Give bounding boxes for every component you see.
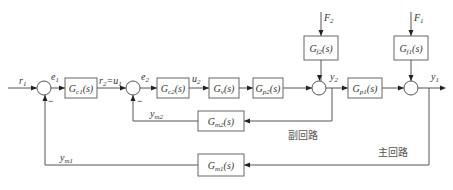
outer-feedback-line-left: [45, 95, 198, 165]
label-y2: y2: [329, 71, 338, 84]
arrow-into-gf2: [319, 30, 324, 36]
summing-junction-1: [37, 81, 51, 95]
label-inner-loop: 副回路: [288, 129, 318, 141]
summing-junction-3: [312, 81, 326, 95]
arrow-into-sum3: [306, 86, 312, 91]
label-e1: e1: [51, 71, 59, 84]
label-ym1: ym1: [59, 152, 73, 165]
arrow-into-gm2: [244, 119, 250, 124]
arrow-ym1-into-sum1: [43, 95, 48, 101]
arrow-into-gc2: [151, 86, 157, 91]
cascade-control-diagram: r1 e1 r2=u1 e2 u2 y2 y1 ym2 ym1 F2 F1 − …: [0, 0, 453, 190]
arrow-into-gc1: [59, 86, 65, 91]
label-r1: r1: [19, 75, 26, 88]
arrow-ym2-into-sum2: [131, 95, 136, 101]
label-outer-loop: 主回路: [378, 146, 408, 158]
arrow-output-y1: [440, 86, 446, 91]
arrow-into-gp1: [342, 86, 348, 91]
summing-junction-2: [126, 81, 140, 95]
summing-junction-4: [404, 81, 418, 95]
label-u2: u2: [192, 73, 201, 86]
arrow-into-gf1: [409, 30, 414, 36]
arrow-into-sum4: [398, 86, 404, 91]
label-e2: e2: [141, 71, 149, 84]
arrow-into-gm1: [244, 163, 250, 168]
label-r2-u1: r2=u1: [99, 75, 122, 88]
arrow-gf1-into-sum4: [409, 75, 414, 81]
arrow-into-gv: [203, 86, 209, 91]
label-ym2: ym2: [149, 108, 164, 121]
minus-sign-sum2: −: [137, 96, 142, 106]
label-F1: F1: [413, 12, 424, 25]
arrow-into-gp2: [247, 86, 253, 91]
inner-feedback-line-left: [133, 95, 198, 121]
arrow-into-sum1: [31, 86, 37, 91]
label-F2: F2: [323, 12, 334, 25]
minus-sign-sum1: −: [48, 96, 53, 106]
label-y1: y1: [430, 71, 439, 84]
